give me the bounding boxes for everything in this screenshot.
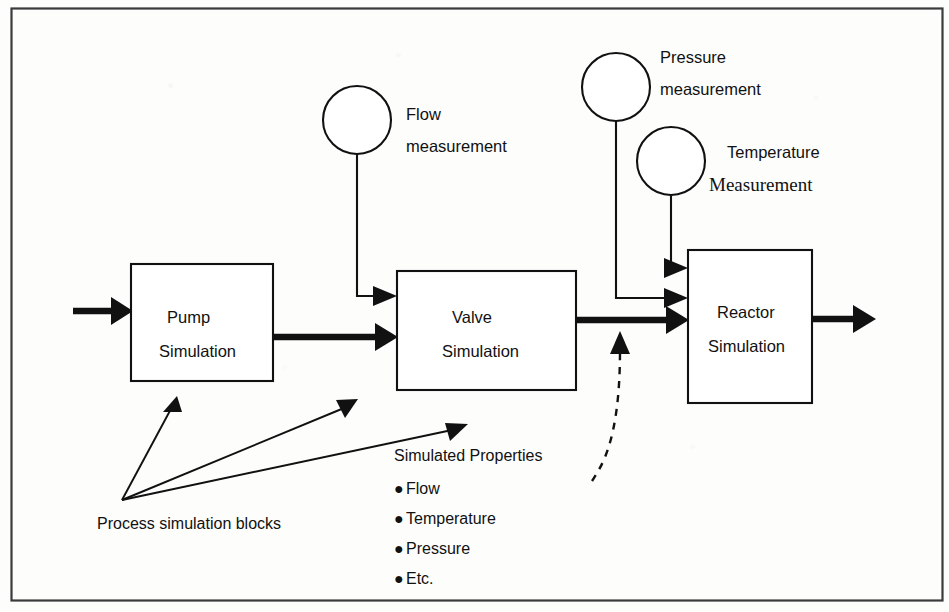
pump-to-valve-arrowhead <box>375 323 398 351</box>
property-label-pressure: Pressure <box>406 540 470 557</box>
inlet-flow-arrow <box>73 297 133 325</box>
property-label-temperature: Temperature <box>406 510 496 527</box>
valve-simulation-label-line1: Valve <box>452 308 492 326</box>
temperature-measurement-label-line2: Measurement <box>709 174 813 195</box>
flow-measurement-label-line2: measurement <box>406 137 507 155</box>
flow-measurement-label-line1: Flow <box>406 105 441 123</box>
temperature-measurement-label-line1: Temperature <box>727 143 820 161</box>
process-simulation-diagram: Flow measurement Pressure measurement Te… <box>0 0 949 612</box>
valve-to-reactor-arrow <box>576 306 689 334</box>
pressure-measurement-circle[interactable] <box>582 53 650 121</box>
property-bullet-icon: ● <box>394 480 404 497</box>
outlet-flow-arrowhead <box>853 305 876 333</box>
inlet-flow-arrowhead <box>111 297 133 325</box>
flow-measurement-circle[interactable] <box>323 86 391 154</box>
temperature-signal-line <box>664 195 671 268</box>
pump-simulation-label-line1: Pump <box>167 308 210 326</box>
valve-simulation-block[interactable]: Valve Simulation <box>397 271 576 390</box>
callout-arrow-2-head <box>336 399 358 418</box>
simulated-properties-arrowhead <box>610 331 630 354</box>
flow-signal-line <box>357 154 373 296</box>
callout-arrow-1-line <box>122 407 172 500</box>
simulated-properties-dashed-line <box>592 350 620 481</box>
property-list-item: ● Temperature <box>394 510 496 527</box>
simulated-properties-heading: Simulated Properties <box>394 447 543 464</box>
reactor-simulation-label-line2: Simulation <box>708 337 785 355</box>
pump-simulation-label-line2: Simulation <box>159 342 236 360</box>
callout-arrow-2-line <box>122 408 344 500</box>
property-list-item: ● Pressure <box>394 540 470 557</box>
simulated-properties-legend: Simulated Properties ● Flow ● Temperatur… <box>394 447 543 587</box>
temperature-measurement-circle[interactable] <box>637 127 705 195</box>
valve-to-reactor-arrowhead <box>666 306 689 334</box>
pressure-measurement-label-line1: Pressure <box>660 48 726 66</box>
property-bullet-icon: ● <box>394 540 404 557</box>
callout-arrow-1-head <box>163 396 182 412</box>
reactor-simulation-rect[interactable] <box>688 250 812 403</box>
valve-simulation-label-line2: Simulation <box>442 342 519 360</box>
reactor-simulation-label-line1: Reactor <box>717 303 775 321</box>
property-list-item: ● Flow <box>394 480 440 497</box>
flow-signal-arrowhead <box>373 286 397 306</box>
pump-simulation-block[interactable]: Pump Simulation <box>131 264 273 381</box>
outlet-flow-arrow <box>812 305 876 333</box>
reactor-simulation-block[interactable]: Reactor Simulation <box>688 250 812 403</box>
pressure-signal-arrowhead <box>664 288 688 308</box>
temperature-signal-arrowhead <box>664 258 688 278</box>
property-bullet-icon: ● <box>394 510 404 527</box>
process-simulation-blocks-caption: Process simulation blocks <box>97 515 281 532</box>
property-bullet-icon: ● <box>394 570 404 587</box>
property-label-etc: Etc. <box>406 570 434 587</box>
pump-to-valve-arrow <box>273 323 398 351</box>
property-label-flow: Flow <box>406 480 440 497</box>
callout-arrow-3-head <box>445 423 468 441</box>
diagram-page: Flow measurement Pressure measurement Te… <box>0 0 949 612</box>
simulated-properties-pointer <box>592 331 630 481</box>
valve-simulation-rect[interactable] <box>397 271 576 390</box>
property-list-item: ● Etc. <box>394 570 434 587</box>
pressure-measurement-label-line2: measurement <box>660 80 761 98</box>
